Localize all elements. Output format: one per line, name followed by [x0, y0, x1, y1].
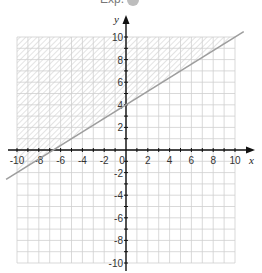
x-tick-label: -10 [10, 155, 25, 166]
y-tick-label: 8 [117, 55, 123, 66]
x-axis-arrow-icon [246, 147, 255, 154]
y-tick-label: -6 [114, 213, 123, 224]
y-tick-label: -4 [114, 190, 123, 201]
y-tick-label: -8 [114, 235, 123, 246]
y-tick-label: 10 [112, 32, 124, 43]
x-tick-label: 2 [145, 155, 151, 166]
x-tick-label: 4 [167, 155, 173, 166]
x-axis-label: x [248, 154, 254, 166]
y-tick-label: -10 [109, 258, 124, 269]
x-tick-label: -6 [56, 155, 65, 166]
y-axis-label: y [113, 13, 119, 25]
x-tick-label: 8 [210, 155, 216, 166]
x-tick-label: -2 [100, 155, 109, 166]
origin-label: 0 [119, 155, 125, 166]
y-tick-label: 2 [117, 122, 123, 133]
y-tick-label: -2 [114, 168, 123, 179]
x-tick-label: 10 [229, 155, 241, 166]
y-tick-label: 6 [117, 77, 123, 88]
x-tick-label: 6 [189, 155, 195, 166]
x-tick-label: -4 [78, 155, 87, 166]
coordinate-plane: xy -10-8-6-4-20246810-10-8-6-4-2246810 [0, 0, 262, 273]
y-axis-arrow-icon [123, 15, 130, 24]
